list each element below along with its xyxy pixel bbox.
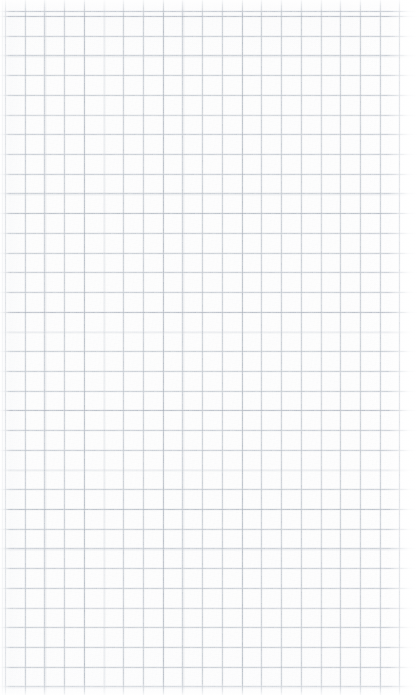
paper-background <box>0 0 417 695</box>
grid-paper-page: Blank squared graph paper, no handwritin… <box>0 0 417 695</box>
